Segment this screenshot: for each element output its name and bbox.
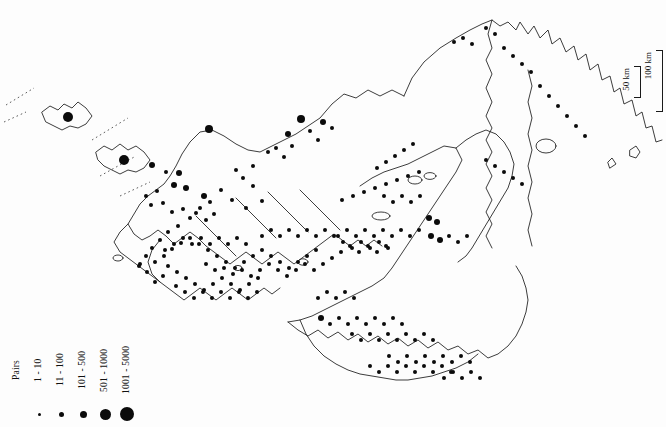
colony-dot [260,234,264,238]
colony-dot [460,376,464,380]
colony-dot [305,254,309,258]
colony-dot [249,274,253,278]
colony-dot [224,260,228,264]
colony-dot [219,290,223,294]
scale-bar-minor-label: 50 km [622,68,631,91]
colony-dot [418,194,422,198]
colony-dot [434,219,440,225]
colony-dot [266,150,270,154]
colony-dot [166,264,170,268]
colony-dot [325,290,329,294]
colony-dot [278,260,282,264]
colony-dot [386,364,390,368]
scale-bar: 50 km 100 km [612,34,664,130]
colony-dot [153,260,157,264]
colony-dot [176,224,180,228]
colony-dot [193,282,197,286]
colony-dot [377,338,381,342]
colony-dot [246,296,250,300]
legend-title: Pairs [12,339,22,401]
colony-dot [190,242,194,246]
colony-dot [428,233,434,239]
colony-dot [339,250,343,254]
colony-dot [294,268,298,272]
colony-dot [451,370,455,374]
colony-dot [181,207,185,211]
colony-dot [197,242,201,246]
colony-dot [355,316,359,320]
colony-dot [330,256,334,260]
colony-dot [354,234,358,238]
colony-dot [404,364,408,368]
colony-dot [386,332,390,336]
colony-dot [316,296,320,300]
colony-dot [332,234,336,238]
colony-dot [244,242,248,246]
colony-dot [287,228,291,232]
colony-dot [442,376,446,380]
colony-dot [323,228,327,232]
legend-dot-1001-5000 [120,407,134,421]
colony-dot [166,230,170,234]
colony-dot [256,276,260,280]
colony-dot [158,238,162,242]
colony-dot [393,154,397,158]
colony-dot [362,190,366,194]
colony-dot [395,338,399,342]
colony-dot [381,228,385,232]
legend-item-501-1000: 501 - 1000 [94,339,116,423]
colony-dot [260,199,264,203]
legend-dot-101-500 [80,411,87,418]
colony-dot [161,274,165,278]
colony-dot [241,176,245,180]
colony-dot [199,236,203,240]
colony-dot [336,234,340,238]
colony-dot [484,158,488,162]
colony-dot [260,248,264,252]
colony-dot [201,290,205,294]
colony-dot [431,370,435,374]
colony-dot [493,32,497,36]
colony-dot [184,276,188,280]
colony-dot [456,240,460,244]
colony-dot [251,164,255,168]
colony-dot [296,234,300,238]
colony-dot [330,126,334,130]
colony-dot [406,174,410,178]
colony-dot [269,228,273,232]
colony-dot [351,194,355,198]
colony-dot [493,164,497,168]
colony-dot [183,290,187,294]
colony-dot [161,201,165,205]
colony-dot [174,284,178,288]
colony-dot [328,322,332,326]
colony-dot [233,266,237,270]
colony-dot [400,322,404,326]
colony-dot [452,40,456,44]
colony-dot [547,94,551,98]
colony-dot [350,332,354,336]
colony-dot [565,114,569,118]
colony-dot [153,280,157,284]
figure-root: Karte von Kolonien [0,0,666,427]
colony-dot [119,155,129,165]
colony-dot [334,296,338,300]
colony-dot [391,200,395,204]
colony-dot [391,316,395,320]
colony-dot [228,296,232,300]
colony-dot [137,264,141,268]
colony-dot [368,332,372,336]
colony-dot [170,247,174,251]
colony-dot [171,182,177,188]
colony-dot [145,270,149,274]
colony-dot [242,260,246,264]
colony-dot [520,182,524,186]
colony-dot [181,236,185,240]
colony-dot [234,168,238,172]
colony-dot [164,170,168,174]
colony-dot [384,182,388,186]
colony-dot [204,262,208,266]
colony-dot [198,206,202,210]
colony-dot [213,268,217,272]
colony-dot [350,246,354,250]
